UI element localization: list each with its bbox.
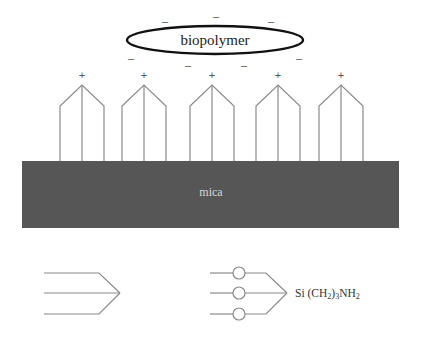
minus-sign: – <box>241 59 248 71</box>
biopolymer-label: biopolymer <box>180 32 249 48</box>
silane-molecule: + <box>319 69 363 161</box>
minus-sign: – <box>162 15 169 27</box>
legend-plain-symbol <box>44 273 120 314</box>
plus-sign: + <box>275 69 281 81</box>
silane-molecule: + <box>190 69 234 161</box>
minus-sign: – <box>185 59 192 71</box>
minus-sign: – <box>268 15 275 27</box>
oxygen-circle-icon <box>233 308 245 320</box>
formula-part: NH <box>339 287 356 299</box>
biopolymer: biopolymer <box>127 26 303 54</box>
symbol-line <box>245 293 287 314</box>
symbol-bottom-arm <box>44 293 120 314</box>
silane-molecules: + + + + + <box>60 69 363 161</box>
plus-sign: + <box>338 69 344 81</box>
minus-sign: – <box>128 52 135 64</box>
oxygen-circle-icon <box>233 267 245 279</box>
minus-sign: – <box>296 52 303 64</box>
oxygen-circle-icon <box>233 287 245 299</box>
legend-silane-symbol: Si (CH2)3NH2 <box>210 267 360 320</box>
silane-molecule: + <box>256 69 300 161</box>
plus-sign: + <box>79 69 85 81</box>
minus-sign: – <box>213 10 220 22</box>
mica-substrate: mica <box>22 161 399 228</box>
silane-molecule: + <box>122 69 166 161</box>
symbol-line <box>245 273 287 293</box>
formula-part: Si (CH <box>295 287 327 300</box>
biopolymer-mica-diagram: biopolymer – – – – – – – + + + + <box>0 0 423 348</box>
formula-subscript: 2 <box>356 292 360 301</box>
silane-formula: Si (CH2)3NH2 <box>295 287 360 301</box>
mica-label: mica <box>199 185 223 199</box>
symbol-top-arm <box>44 273 120 293</box>
plus-sign: + <box>141 69 147 81</box>
silane-molecule: + <box>60 69 104 161</box>
plus-sign: + <box>209 69 215 81</box>
